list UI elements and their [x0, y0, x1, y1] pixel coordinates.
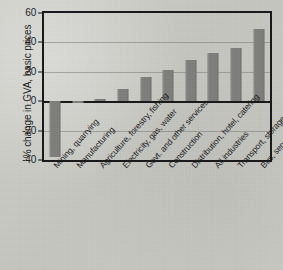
y-axis-tick-label: 60 — [25, 8, 36, 18]
y-axis: 6040200-20-40 — [0, 0, 42, 270]
bar[interactable] — [50, 101, 61, 157]
bar[interactable] — [118, 89, 129, 101]
y-axis-tick-label: 0 — [31, 96, 36, 106]
bar[interactable] — [185, 60, 196, 101]
bar[interactable] — [140, 77, 151, 101]
bar[interactable] — [72, 101, 83, 102]
bar[interactable] — [208, 53, 219, 101]
bar[interactable] — [95, 99, 106, 101]
y-axis-tick-label: -40 — [22, 155, 36, 165]
bar[interactable] — [231, 48, 242, 102]
bar-slot — [44, 13, 67, 160]
bar[interactable] — [253, 29, 264, 101]
y-axis-tick-label: 20 — [25, 67, 36, 77]
y-axis-tick-label: 40 — [25, 37, 36, 47]
figure-background: % change in GVA, basic prices 6040200-20… — [0, 0, 283, 270]
x-axis-labels: Mining, quarryingManufacturingAgricultur… — [42, 164, 272, 268]
y-axis-tick-label: -20 — [22, 126, 36, 136]
